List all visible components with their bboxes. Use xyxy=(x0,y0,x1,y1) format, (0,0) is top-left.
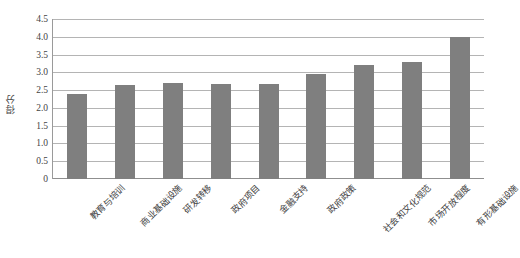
x-label-slot: 政府政策 xyxy=(292,181,340,258)
bar-slot xyxy=(53,19,101,179)
bar-slot xyxy=(101,19,149,179)
bar[interactable] xyxy=(450,37,470,179)
bar-slot xyxy=(388,19,436,179)
y-axis-tick-label: 4.0 xyxy=(22,32,48,42)
plot-area xyxy=(52,19,484,179)
x-label-slot: 金融支持 xyxy=(244,181,292,258)
x-label-slot: 研发转移 xyxy=(148,181,196,258)
bar-slot xyxy=(436,19,484,179)
y-axis-tick-label: 0 xyxy=(22,174,48,184)
y-axis-tick-labels: 4.54.03.53.02.52.01.51.00.50 xyxy=(22,0,48,258)
x-label-slot: 商业基础设施 xyxy=(100,181,148,258)
bar-slot xyxy=(197,19,245,179)
y-axis-tick-label: 0.5 xyxy=(22,156,48,166)
y-axis-tick-label: 2.5 xyxy=(22,85,48,95)
y-axis-tick-label: 3.0 xyxy=(22,67,48,77)
y-axis-tick-label: 4.5 xyxy=(22,14,48,24)
y-axis-tick-label: 3.5 xyxy=(22,50,48,60)
bar[interactable] xyxy=(163,83,183,179)
bar[interactable] xyxy=(306,74,326,179)
x-label-slot: 社会和文化规范 xyxy=(340,181,388,258)
x-label-slot: 市场开放程度 xyxy=(388,181,436,258)
y-axis-tick-label: 2.0 xyxy=(22,103,48,113)
bar-slot xyxy=(245,19,293,179)
x-axis-tick-label: 有形基础设施 xyxy=(475,183,520,228)
bar[interactable] xyxy=(211,84,231,179)
y-axis-tick-label: 1.0 xyxy=(22,138,48,148)
y-axis-title: 得分 xyxy=(6,82,20,126)
bar[interactable] xyxy=(402,62,422,179)
bar[interactable] xyxy=(354,65,374,179)
bar[interactable] xyxy=(259,84,279,179)
bar-slot xyxy=(340,19,388,179)
x-label-slot: 政府项目 xyxy=(196,181,244,258)
y-axis-tick-label: 1.5 xyxy=(22,121,48,131)
bars-layer xyxy=(53,19,484,179)
x-label-slot: 有形基础设施 xyxy=(436,181,484,258)
x-axis-tick-labels: 教育与培训商业基础设施研发转移政府项目金融支持政府政策社会和文化规范市场开放程度… xyxy=(52,181,484,258)
bar-slot xyxy=(292,19,340,179)
bar[interactable] xyxy=(67,94,87,179)
x-label-slot: 教育与培训 xyxy=(52,181,100,258)
bar-slot xyxy=(149,19,197,179)
bar[interactable] xyxy=(115,85,135,179)
